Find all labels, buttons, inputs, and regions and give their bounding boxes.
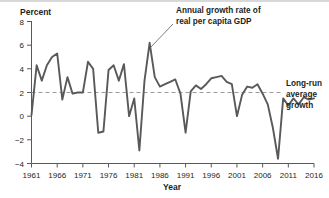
y-tick-label-minus4: −4 bbox=[15, 160, 25, 169]
x-tick-label-1991: 1991 bbox=[177, 171, 195, 180]
x-tick-label-1986: 1986 bbox=[151, 171, 169, 180]
x-tick-label-1966: 1966 bbox=[48, 171, 66, 180]
x-axis-tick-labels: 1961196619711976198119861991199620012006… bbox=[23, 171, 324, 180]
y-tick-label-8: 8 bbox=[20, 18, 25, 27]
y-tick-label-4: 4 bbox=[20, 65, 25, 74]
chart-figure: Percent 8 6 4 2 0 −2 −4 1961196619711976 bbox=[0, 0, 329, 198]
x-tick-label-2001: 2001 bbox=[228, 171, 246, 180]
x-tick-label-1971: 1971 bbox=[74, 171, 92, 180]
series-annotation-line-1: Annual growth rate of bbox=[176, 6, 261, 15]
y-tick-label-2: 2 bbox=[20, 89, 25, 98]
x-axis-title: Year bbox=[163, 182, 182, 192]
x-tick-label-2006: 2006 bbox=[254, 171, 272, 180]
gdp-growth-series-line bbox=[32, 43, 315, 159]
y-axis-title: Percent bbox=[20, 7, 51, 17]
y-tick-label-minus2: −2 bbox=[15, 136, 25, 145]
annotation-leader-line bbox=[150, 24, 173, 48]
gdp-growth-line-chart: Percent 8 6 4 2 0 −2 −4 1961196619711976 bbox=[0, 0, 329, 198]
y-axis-ticks bbox=[27, 22, 32, 164]
reference-annotation-line-3: growth bbox=[286, 101, 313, 110]
y-tick-label-0: 0 bbox=[20, 112, 25, 121]
reference-annotation-line-2: average bbox=[286, 90, 317, 99]
x-tick-label-1996: 1996 bbox=[202, 171, 220, 180]
reference-annotation-line-1: Long-run bbox=[286, 79, 322, 88]
y-axis-tick-labels: 8 6 4 2 0 −2 −4 bbox=[15, 18, 25, 169]
x-tick-label-1981: 1981 bbox=[125, 171, 143, 180]
series-annotation-line-2: real per capita GDP bbox=[176, 17, 252, 26]
x-tick-label-2011: 2011 bbox=[280, 171, 298, 180]
x-tick-label-1976: 1976 bbox=[100, 171, 118, 180]
y-tick-label-6: 6 bbox=[20, 41, 25, 50]
x-axis-ticks bbox=[32, 164, 315, 168]
x-tick-label-2016: 2016 bbox=[305, 171, 323, 180]
x-tick-label-1961: 1961 bbox=[23, 171, 41, 180]
